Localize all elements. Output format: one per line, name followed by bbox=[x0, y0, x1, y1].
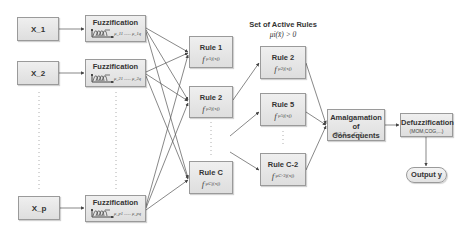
active-rule-2-formula: f μ2j(xj) bbox=[261, 64, 305, 74]
active-rule-c-2: Rule C-2 f μC-2j(xj) bbox=[260, 153, 306, 186]
rule-1: Rule 1 f μ1j(xj) bbox=[189, 36, 233, 68]
rule-2-formula: f μ2j(xj) bbox=[190, 104, 232, 114]
fuzzification-p: Fuzzification μ_p1 ...... μ_pq bbox=[85, 195, 146, 222]
fuzzification-2: Fuzzification μ_21 ...... μ_2q bbox=[85, 59, 146, 87]
input-x1-label: X_1 bbox=[18, 18, 58, 42]
input-xp: X_p bbox=[18, 196, 60, 220]
membership-values-2: μ_21 ...... μ_2q bbox=[114, 76, 141, 81]
amalgamation-line1: Amalgamation bbox=[328, 113, 384, 122]
membership-function-icon bbox=[90, 72, 116, 83]
rule-1-formula: f μ1j(xj) bbox=[190, 54, 232, 64]
active-rule-c-2-label: Rule C-2 bbox=[261, 160, 305, 169]
active-rule-5: Rule 5 f μ5j(xj) bbox=[260, 93, 306, 126]
membership-values-1: μ_11 ...... μ_1q bbox=[114, 31, 141, 36]
membership-function-icon bbox=[90, 207, 116, 218]
ellipsis-dots bbox=[39, 92, 283, 190]
defuzzification-methods: (MOM,COG,...) bbox=[401, 128, 452, 134]
active-rule-5-formula: f μ5j(xj) bbox=[261, 111, 305, 121]
rule-2: Rule 2 f μ2j(xj) bbox=[189, 86, 233, 118]
active-rules-title: Set of Active Rules bbox=[240, 20, 326, 29]
active-rule-c-2-formula: f μC-2j(xj) bbox=[261, 171, 305, 181]
connector-layer bbox=[0, 0, 466, 235]
fuzzification-1-label: Fuzzification bbox=[86, 18, 145, 27]
rule-2-label: Rule 2 bbox=[190, 93, 232, 102]
rule-1-label: Rule 1 bbox=[190, 43, 232, 52]
fuzzification-2-label: Fuzzification bbox=[86, 62, 145, 71]
input-x1: X_1 bbox=[17, 17, 59, 41]
fuzzification-p-label: Fuzzification bbox=[86, 198, 145, 207]
rule-c-label: Rule C bbox=[190, 168, 232, 177]
defuzzification-label: Defuzzification bbox=[401, 118, 452, 127]
input-x2-label: X_2 bbox=[18, 62, 58, 86]
amalgamation-phi: Φ2,5,...,C-2 bbox=[334, 131, 362, 137]
active-rule-5-label: Rule 5 bbox=[261, 100, 305, 109]
rule-c-formula: f μCj(xj) bbox=[190, 179, 232, 189]
active-rule-2: Rule 2 f μ2j(xj) bbox=[260, 46, 306, 79]
membership-function-icon bbox=[90, 27, 116, 38]
amalgamation-of-consequents: Amalgamation of Consequents Φ2,5,...,C-2 bbox=[327, 109, 385, 141]
fuzzification-1: Fuzzification μ_11 ...... μ_1q bbox=[85, 15, 146, 42]
rule-c: Rule C f μCj(xj) bbox=[189, 161, 233, 194]
input-x2: X_2 bbox=[17, 61, 59, 85]
defuzzification: Defuzzification (MOM,COG,...) bbox=[400, 113, 453, 137]
active-rule-2-label: Rule 2 bbox=[261, 53, 305, 62]
membership-values-p: μ_p1 ...... μ_pq bbox=[114, 211, 141, 216]
input-xp-label: X_p bbox=[19, 197, 59, 221]
output-y: Output y bbox=[406, 167, 447, 183]
active-rules-condition: μi(x̄) > 0 bbox=[250, 30, 316, 39]
